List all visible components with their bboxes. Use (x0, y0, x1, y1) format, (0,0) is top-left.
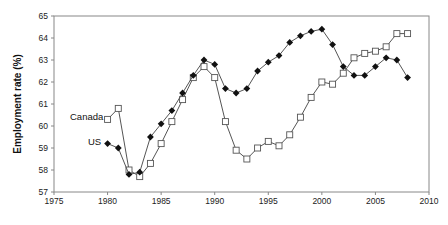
data-point-diamond (104, 140, 111, 147)
y-tick-label: 58 (39, 165, 49, 175)
data-point-square (297, 114, 303, 120)
data-point-square (330, 81, 336, 87)
data-point-square (383, 44, 389, 50)
y-tick-label: 62 (39, 77, 49, 87)
y-tick-label: 65 (39, 11, 49, 21)
data-point-diamond (222, 85, 229, 92)
data-point-diamond (297, 32, 304, 39)
data-point-diamond (243, 85, 250, 92)
data-point-square (265, 138, 271, 144)
data-point-diamond (308, 28, 315, 35)
data-point-square (105, 116, 111, 122)
data-point-square (255, 145, 261, 151)
y-tick-label: 64 (39, 33, 49, 43)
data-point-square (394, 31, 400, 37)
tick-labels: 5758596061626364651975198019851990199520… (39, 11, 439, 206)
series-canada (105, 31, 411, 180)
x-tick-label: 2005 (366, 196, 385, 206)
canada-series-label: Canada (70, 111, 104, 122)
data-point-diamond (201, 57, 208, 64)
data-point-diamond (329, 41, 336, 48)
data-point-diamond (115, 145, 122, 152)
data-point-square (319, 79, 325, 85)
data-point-square (287, 132, 293, 138)
x-tick-label: 1990 (205, 196, 224, 206)
data-point-square (212, 75, 218, 81)
data-point-diamond (393, 57, 400, 64)
data-point-square (372, 48, 378, 54)
data-point-square (405, 31, 411, 37)
data-point-square (308, 94, 314, 100)
data-point-square (244, 156, 250, 162)
data-point-square (233, 147, 239, 153)
data-point-square (169, 119, 175, 125)
data-point-square (158, 141, 164, 147)
axes (51, 16, 429, 195)
data-point-square (351, 55, 357, 61)
us-series-label: US (88, 136, 101, 147)
data-point-square (180, 97, 186, 103)
x-tick-label: 2000 (312, 196, 331, 206)
series-us (104, 26, 411, 178)
data-point-diamond (233, 90, 240, 97)
y-tick-label: 59 (39, 143, 49, 153)
data-point-square (222, 119, 228, 125)
data-point-diamond (318, 26, 325, 33)
data-point-square (276, 143, 282, 149)
y-tick-label: 61 (39, 99, 49, 109)
data-point-diamond (211, 61, 218, 68)
plot-frame (54, 16, 429, 192)
data-point-square (201, 64, 207, 70)
x-tick-label: 1985 (152, 196, 171, 206)
y-axis-label: Employment rate (%) (12, 54, 23, 153)
data-point-square (147, 160, 153, 166)
x-tick-label: 1995 (259, 196, 278, 206)
data-point-square (362, 50, 368, 56)
y-tick-label: 63 (39, 55, 49, 65)
data-point-square (340, 70, 346, 76)
data-point-diamond (404, 74, 411, 81)
x-tick-label: 1975 (45, 196, 64, 206)
data-point-square (115, 105, 121, 111)
x-tick-label: 1980 (98, 196, 117, 206)
x-tick-label: 2010 (420, 196, 439, 206)
employment-rate-chart: 5758596061626364651975198019851990199520… (0, 0, 448, 225)
y-tick-label: 60 (39, 121, 49, 131)
